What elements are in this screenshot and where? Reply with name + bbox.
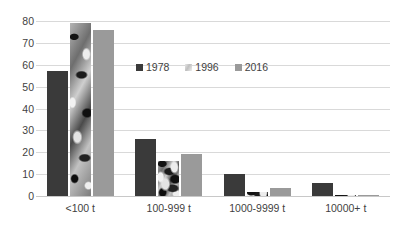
y-tick-label: 80 (4, 16, 34, 27)
y-tick-label: 10 (4, 169, 34, 180)
bar-1996[interactable] (335, 195, 356, 197)
x-tick-label-10000plus-t: 10000+ t (302, 203, 391, 214)
bar-chart: 80 70 60 50 40 30 20 10 0 (0, 0, 404, 226)
bar-groups (36, 21, 390, 196)
bar-1978[interactable] (224, 174, 245, 196)
y-tick-label: 0 (4, 191, 34, 202)
y-tick-label: 50 (4, 81, 34, 92)
bar-2016[interactable] (93, 30, 114, 196)
y-tick-label: 30 (4, 125, 34, 136)
x-tick-label-lt100t: <100 t (36, 203, 125, 214)
bar-group-1000-9999t (213, 21, 302, 196)
bar-group-10000plus-t (302, 21, 391, 196)
bar-2016[interactable] (358, 195, 379, 197)
bar-1996[interactable] (247, 192, 268, 196)
bar-group-lt100t (36, 21, 125, 196)
x-tick-label-1000-9999t: 1000-9999 t (213, 203, 302, 214)
y-tick-label: 60 (4, 60, 34, 71)
axis-baseline (36, 196, 390, 197)
bar-1978[interactable] (47, 71, 68, 196)
bar-2016[interactable] (181, 154, 202, 196)
y-tick-label: 70 (4, 38, 34, 49)
bar-1978[interactable] (312, 183, 333, 196)
bar-1996[interactable] (70, 23, 91, 196)
bar-group-100-999t (125, 21, 214, 196)
bar-1978[interactable] (135, 139, 156, 196)
y-tick-label: 40 (4, 103, 34, 114)
bar-2016[interactable] (270, 188, 291, 196)
bar-1996[interactable] (158, 161, 179, 196)
y-tick-label: 20 (4, 147, 34, 158)
x-tick-label-100-999t: 100-999 t (125, 203, 214, 214)
plot-area (36, 21, 390, 196)
